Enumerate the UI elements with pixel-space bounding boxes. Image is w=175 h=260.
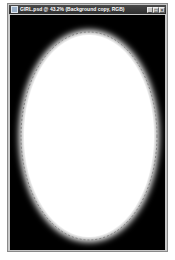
title-bar[interactable]: GIRL.psd @ 43.2% (Background copy, RGB) … [9,5,166,14]
window-controls: _ □ × [147,7,165,13]
image-canvas[interactable] [10,15,165,250]
window-title: GIRL.psd @ 43.2% (Background copy, RGB) [20,5,125,14]
document-icon [11,6,18,13]
close-button[interactable]: × [159,7,165,13]
document-window: GIRL.psd @ 43.2% (Background copy, RGB) … [7,3,168,252]
feathered-ellipse [10,15,165,250]
